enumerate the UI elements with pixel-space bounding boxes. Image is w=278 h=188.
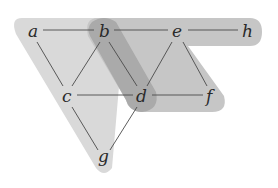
- node-h: h: [242, 21, 253, 41]
- node-c: c: [62, 86, 72, 106]
- node-e: e: [172, 21, 182, 41]
- node-b: b: [99, 21, 110, 41]
- hypergraph-diagram: a b e h c d f g: [0, 0, 278, 188]
- node-g: g: [98, 146, 109, 166]
- node-d: d: [136, 86, 147, 106]
- node-a: a: [28, 21, 38, 41]
